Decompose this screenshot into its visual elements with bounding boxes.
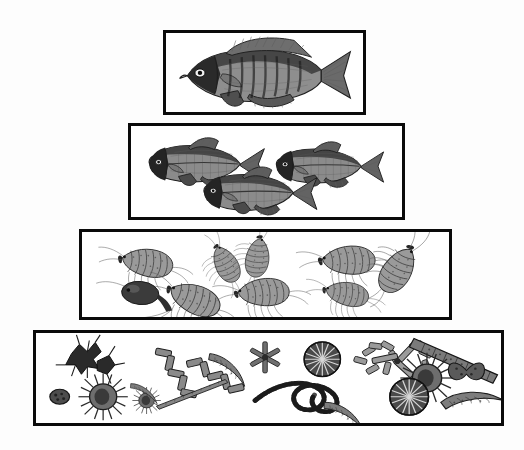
pyramid-tier-2-forage-fish (128, 123, 405, 220)
tier-3-illustration (82, 232, 449, 317)
radial-disc-diatom-2 (390, 378, 429, 415)
tier-2-illustration (131, 126, 402, 217)
forage-fish-upper-right (276, 141, 383, 188)
radial-disc-diatom-1 (304, 342, 340, 376)
oval-desmid (50, 389, 70, 404)
needle-diatom (154, 379, 231, 409)
star-diatom-cluster (56, 335, 125, 384)
tier-4-illustration (36, 333, 501, 423)
pyramid-tier-1-top-predator (163, 30, 366, 115)
aquatic-food-pyramid (0, 0, 524, 450)
pyramid-tier-3-zooplankton (79, 229, 452, 320)
radiate-spiny-alga (78, 373, 127, 420)
tier-1-illustration (166, 33, 363, 112)
copepod-dark (92, 277, 175, 317)
tabellaria-star (250, 342, 281, 373)
game-fish-icon (180, 37, 351, 109)
amphipod-6 (300, 275, 388, 317)
pyramid-tier-4-phytoplankton (33, 330, 504, 426)
crescent-diatom-2 (440, 379, 501, 422)
